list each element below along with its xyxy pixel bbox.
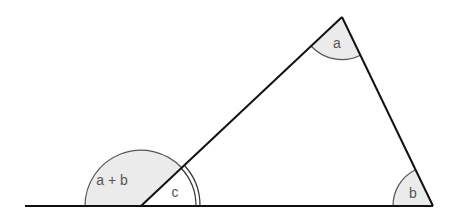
angle-c-arc-inner	[181, 168, 196, 206]
side-ca	[141, 17, 342, 206]
exterior-angle-diagram: a b c a + b	[0, 0, 457, 221]
side-ab	[342, 17, 433, 206]
label-angle-b: b	[409, 185, 417, 201]
label-exterior-angle: a + b	[96, 172, 128, 188]
label-angle-c: c	[172, 184, 179, 200]
label-angle-a: a	[333, 35, 341, 51]
